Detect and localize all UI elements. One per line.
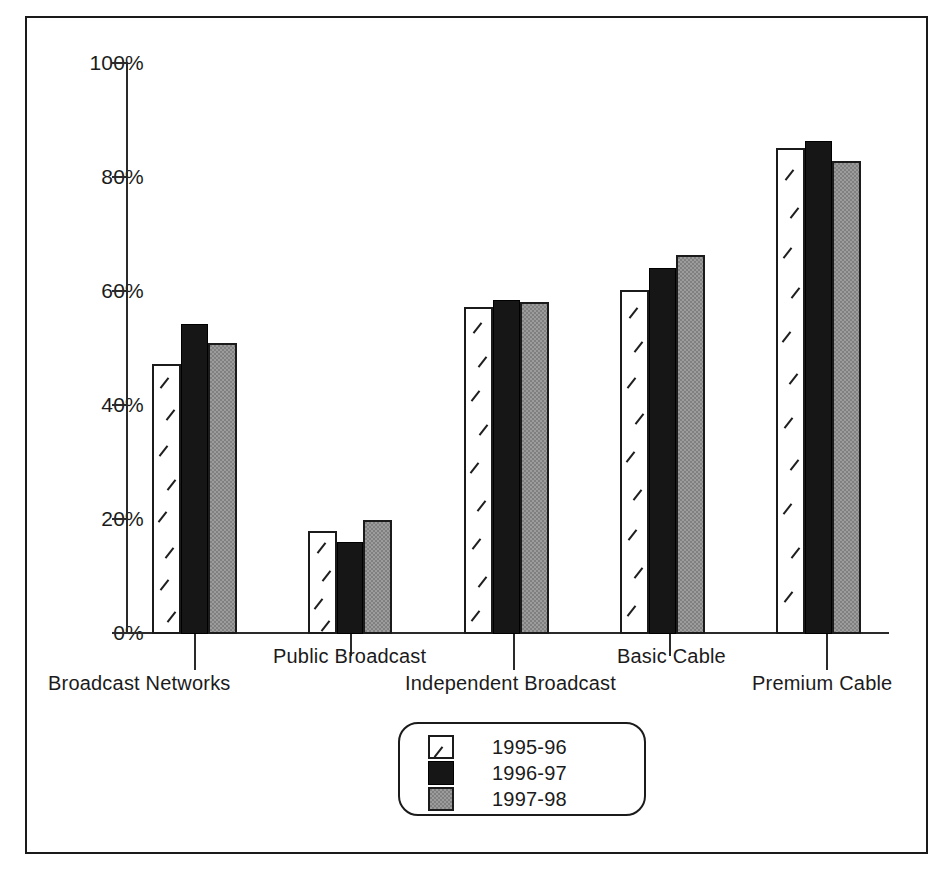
legend-box: 1995-96 1996-97 1997-98 bbox=[398, 722, 646, 816]
legend-item-1997-98[interactable]: 1997-98 bbox=[428, 786, 567, 812]
hatch-pattern bbox=[466, 309, 491, 632]
y-tick-label-100: 100% bbox=[64, 51, 144, 75]
x-category-label-broadcast-networks: Broadcast Networks bbox=[48, 672, 231, 695]
dither-pattern bbox=[834, 163, 859, 632]
y-tick-60 bbox=[112, 290, 127, 292]
x-category-label-public-broadcast: Public Broadcast bbox=[273, 645, 426, 668]
legend-label-1995-96: 1995-96 bbox=[492, 736, 567, 759]
y-tick-40 bbox=[112, 404, 127, 406]
bar-1997-98-basic-cable[interactable] bbox=[676, 255, 705, 634]
dither-pattern bbox=[430, 789, 452, 809]
bar-1995-96-independent-broadcast[interactable] bbox=[464, 307, 493, 634]
bar-1996-97-independent-broadcast[interactable] bbox=[493, 300, 520, 634]
y-tick-80 bbox=[112, 176, 127, 178]
dither-pattern bbox=[522, 304, 547, 632]
y-tick-label-80: 80% bbox=[64, 165, 144, 189]
hatch-pattern bbox=[154, 366, 179, 632]
bar-1995-96-basic-cable[interactable] bbox=[620, 290, 649, 634]
legend-label-1996-97: 1996-97 bbox=[492, 762, 567, 785]
hatch-pattern bbox=[778, 150, 803, 632]
bar-1996-97-broadcast-networks[interactable] bbox=[181, 324, 208, 634]
y-tick-label-40: 40% bbox=[64, 393, 144, 417]
hatch-pattern bbox=[310, 533, 335, 632]
x-category-label-premium-cable: Premium Cable bbox=[752, 672, 892, 695]
bar-1996-97-basic-cable[interactable] bbox=[649, 268, 676, 634]
legend-swatch-1995-96 bbox=[428, 735, 454, 759]
y-tick-label-20: 20% bbox=[64, 507, 144, 531]
dither-pattern bbox=[210, 345, 235, 632]
bar-1997-98-independent-broadcast[interactable] bbox=[520, 302, 549, 634]
y-tick-20 bbox=[112, 518, 127, 520]
y-tick-label-60: 60% bbox=[64, 279, 144, 303]
y-tick-100 bbox=[112, 62, 127, 64]
legend-swatch-1997-98 bbox=[428, 787, 454, 811]
bar-1995-96-broadcast-networks[interactable] bbox=[152, 364, 181, 634]
plot-area: 100% 80% 60% 40% 20% 0% bbox=[0, 0, 949, 873]
bar-1995-96-public-broadcast[interactable] bbox=[308, 531, 337, 634]
legend-label-1997-98: 1997-98 bbox=[492, 788, 567, 811]
x-category-label-independent-broadcast: Independent Broadcast bbox=[405, 672, 616, 695]
chart-page: 100% 80% 60% 40% 20% 0% bbox=[0, 0, 949, 873]
bar-1996-97-premium-cable[interactable] bbox=[805, 141, 832, 634]
x-tick-premium-cable bbox=[826, 634, 828, 670]
hatch-pattern bbox=[622, 292, 647, 632]
bar-1996-97-public-broadcast[interactable] bbox=[337, 542, 363, 634]
x-category-label-basic-cable: Basic Cable bbox=[617, 645, 726, 668]
dither-pattern bbox=[678, 257, 703, 632]
x-tick-broadcast-networks bbox=[194, 634, 196, 670]
legend-swatch-1996-97 bbox=[428, 761, 454, 785]
legend-item-1995-96[interactable]: 1995-96 bbox=[428, 734, 567, 760]
bar-1997-98-premium-cable[interactable] bbox=[832, 161, 861, 634]
x-tick-independent-broadcast bbox=[513, 634, 515, 670]
y-tick-0 bbox=[112, 632, 127, 634]
bar-1997-98-public-broadcast[interactable] bbox=[363, 520, 392, 634]
bar-1995-96-premium-cable[interactable] bbox=[776, 148, 805, 634]
dither-pattern bbox=[365, 522, 390, 632]
y-axis-line bbox=[126, 62, 128, 634]
bar-1997-98-broadcast-networks[interactable] bbox=[208, 343, 237, 634]
hatch-pattern bbox=[430, 737, 452, 757]
legend-item-1996-97[interactable]: 1996-97 bbox=[428, 760, 567, 786]
